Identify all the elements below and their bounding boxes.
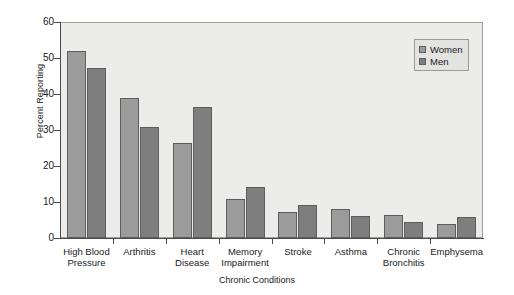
bar-men-3 [246, 187, 265, 238]
legend-label-women: Women [430, 44, 463, 55]
x-tick-mark [272, 239, 273, 244]
bar-women-3 [226, 199, 245, 238]
bar-men-5 [351, 216, 370, 238]
legend-swatch-women-icon [419, 46, 426, 53]
bar-women-1 [120, 98, 139, 238]
bar-women-4 [278, 212, 297, 238]
y-tick-label: 50 [28, 53, 54, 63]
x-category-label: Emphysema [422, 246, 491, 257]
legend-item-men: Men [419, 55, 463, 67]
bar-women-2 [173, 143, 192, 238]
bar-women-6 [384, 215, 403, 238]
x-tick-mark [219, 239, 220, 244]
y-tick-label: 20 [28, 161, 54, 171]
legend: Women Men [414, 39, 469, 71]
legend-swatch-men-icon [419, 58, 426, 65]
x-tick-mark [113, 239, 114, 244]
x-tick-mark [430, 239, 431, 244]
bar-men-1 [140, 127, 159, 238]
y-tick-label: 0 [28, 233, 54, 243]
y-tick-label: 30 [28, 125, 54, 135]
bar-chart: Percent Reporting 0102030405060 High Blo… [0, 0, 514, 295]
bar-men-7 [457, 217, 476, 238]
x-axis-title: Chronic Conditions [0, 275, 514, 285]
bar-women-5 [331, 209, 350, 238]
x-tick-mark [377, 239, 378, 244]
y-tick-label: 40 [28, 89, 54, 99]
bar-men-2 [193, 107, 212, 238]
bar-women-7 [437, 224, 456, 238]
legend-item-women: Women [419, 43, 463, 55]
y-axis-title: Percent Reporting [35, 1, 45, 201]
bar-women-0 [67, 51, 86, 238]
bar-men-4 [298, 205, 317, 238]
x-tick-mark [166, 239, 167, 244]
legend-label-men: Men [430, 56, 448, 67]
x-tick-mark [324, 239, 325, 244]
y-tick-label: 60 [28, 17, 54, 27]
y-tick-mark [54, 238, 60, 239]
bar-men-6 [404, 222, 423, 238]
bar-men-0 [87, 68, 106, 238]
y-tick-label: 10 [28, 197, 54, 207]
